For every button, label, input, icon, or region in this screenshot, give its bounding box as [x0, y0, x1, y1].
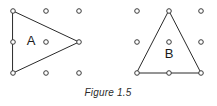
- figure-container: A B Figure 1.5: [0, 0, 217, 106]
- peg-b-r1c2[interactable]: [199, 40, 204, 45]
- peg-a-r1c2[interactable]: [77, 40, 82, 45]
- peg-b-r1c0[interactable]: [135, 40, 140, 45]
- peg-b-r2c2[interactable]: [199, 71, 204, 76]
- figure-caption: Figure 1.5: [84, 87, 131, 98]
- peg-a-r2c2[interactable]: [77, 71, 82, 76]
- peg-a-r1c0[interactable]: [11, 40, 16, 45]
- peg-b-r0c2[interactable]: [199, 9, 204, 14]
- peg-b-r0c0[interactable]: [135, 9, 140, 14]
- peg-b-r1c1[interactable]: [167, 40, 172, 45]
- peg-a-r1c1[interactable]: [44, 40, 49, 45]
- peg-a-r0c2[interactable]: [77, 9, 82, 14]
- peg-a-r0c1[interactable]: [44, 9, 49, 14]
- peg-a-r0c0[interactable]: [11, 9, 16, 14]
- geoboard-figure: A B Figure 1.5: [0, 0, 217, 106]
- peg-b-r0c1[interactable]: [167, 9, 172, 14]
- shape-label-b: B: [165, 46, 174, 61]
- shape-label-a: A: [27, 33, 36, 48]
- peg-a-r2c1[interactable]: [44, 71, 49, 76]
- peg-a-r2c0[interactable]: [11, 71, 16, 76]
- geoboard-b: B: [135, 9, 204, 76]
- peg-b-r2c0[interactable]: [135, 71, 140, 76]
- geoboard-a: A: [11, 9, 82, 76]
- peg-b-r2c1[interactable]: [167, 71, 172, 76]
